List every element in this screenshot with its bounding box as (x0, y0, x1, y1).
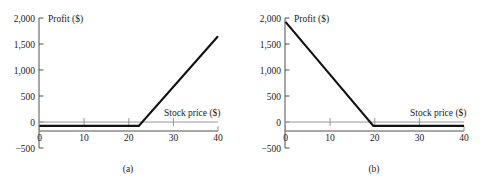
chart-panel-b: 2,000 1,500 1,000 500 0 −500 0 10 20 30 … (246, 0, 492, 187)
option-payoff-figure: 2,000 1,500 1,000 500 0 −500 0 10 20 30 … (0, 0, 492, 187)
y-tick-label-1000-b: 1,000 (260, 66, 282, 76)
y-tick-label-neg500-b: −500 (261, 144, 281, 154)
chart-a-svg: 2,000 1,500 1,000 500 0 −500 0 10 20 30 … (0, 0, 246, 187)
x-tick-label-20-b: 20 (370, 133, 380, 143)
chart-b-svg: 2,000 1,500 1,000 500 0 −500 0 10 20 30 … (246, 0, 492, 187)
x-axis-title-b: Stock price ($) (410, 108, 466, 119)
y-tick-label-500-a: 500 (21, 92, 36, 102)
x-tick-label-30-b: 30 (415, 133, 425, 143)
x-tick-label-30-a: 30 (169, 133, 179, 143)
y-tick-label-1000-a: 1,000 (14, 66, 36, 76)
x-tick-label-10-b: 10 (325, 133, 335, 143)
x-tick-label-40-a: 40 (213, 133, 223, 143)
x-tick-label-10-a: 10 (79, 133, 89, 143)
y-axis-title-a: Profit ($) (48, 14, 83, 25)
y-tick-label-2000-a: 2,000 (14, 14, 36, 24)
panel-caption-a: (a) (123, 164, 134, 175)
x-tick-label-20-a: 20 (124, 133, 134, 143)
y-axis-title-b: Profit ($) (294, 14, 329, 25)
y-tick-label-500-b: 500 (267, 92, 282, 102)
y-tick-label-neg500-a: −500 (15, 144, 35, 154)
x-tick-label-0-b: 0 (283, 133, 288, 143)
y-tick-label-1500-a: 1,500 (14, 40, 36, 50)
y-tick-label-1500-b: 1,500 (260, 40, 282, 50)
panel-caption-b: (b) (368, 164, 379, 175)
x-tick-label-40-b: 40 (459, 133, 469, 143)
y-tick-label-0-b: 0 (276, 118, 281, 128)
y-tick-label-2000-b: 2,000 (260, 14, 282, 24)
chart-panel-a: 2,000 1,500 1,000 500 0 −500 0 10 20 30 … (0, 0, 246, 187)
x-tick-label-0-a: 0 (37, 133, 42, 143)
x-axis-title-a: Stock price ($) (164, 108, 220, 119)
y-tick-label-0-a: 0 (30, 118, 35, 128)
